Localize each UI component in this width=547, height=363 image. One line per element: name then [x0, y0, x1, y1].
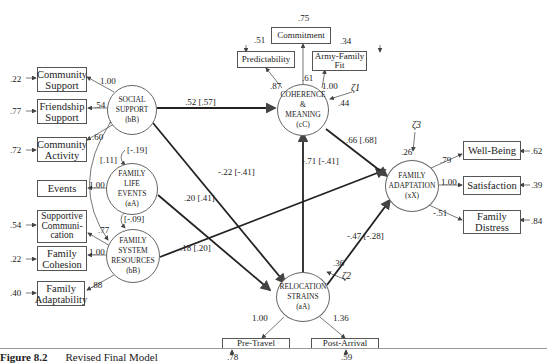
loading-value: .61 [302, 73, 313, 83]
indicator-label: Family Distress [464, 211, 520, 233]
latent-label: (aA) [296, 302, 310, 312]
latent-label: FAMILY [398, 171, 425, 181]
indicator-supportive-communication: Supportive Communi-cation [37, 210, 87, 243]
correlation-value: [-.19] [127, 145, 147, 155]
indicator-friendship-support: Friendship Support [37, 99, 87, 124]
loading-value: 1.00 [322, 81, 338, 91]
path-coefficient: -.47 [-.28] [347, 231, 384, 241]
indicator-army-family-fit: Army-Family Fit [312, 51, 367, 71]
indicator-label: Satisfaction [467, 180, 517, 191]
loading-value: .54 [94, 100, 105, 110]
indicator-label: Events [48, 183, 77, 194]
indicator-family-cohesion: Family Cohesion [37, 246, 87, 271]
latent-label: (aA) [125, 199, 139, 209]
figure-caption: Figure 8.2Revised Final Model [0, 351, 158, 363]
latent-label: SOCIAL [118, 95, 145, 105]
correlation-value: [.11] [100, 155, 117, 165]
error-value: .59 [341, 352, 352, 362]
indicator-predictability: Predictability [237, 51, 295, 68]
error-value: .62 [531, 146, 542, 156]
error-value: .75 [298, 13, 309, 23]
loading-value: 1.00 [89, 247, 105, 257]
latent-coherence-meaning: COHERENCE & MEANING (cC) [277, 84, 329, 136]
zeta-3-symbol: ζ3 [412, 119, 421, 130]
loading-value: -.51 [433, 208, 447, 218]
loading-value: 1.00 [100, 76, 116, 86]
path-coefficient: -.22 [-.41] [218, 167, 255, 177]
error-value: .51 [254, 35, 265, 45]
latent-label: (bB) [126, 266, 140, 276]
latent-label: COHERENCE [281, 90, 326, 100]
latent-label: & [300, 100, 306, 110]
indicator-events: Events [37, 180, 87, 197]
indicator-satisfaction: Satisfaction [463, 176, 521, 195]
error-value: .78 [227, 352, 238, 362]
indicator-well-being: Well-Being [463, 141, 521, 160]
latent-label: EVENTS [118, 189, 147, 199]
zeta-1-value: .44 [338, 98, 349, 108]
latent-label: SUPPORT [116, 105, 148, 115]
correlation-value: [-.09] [124, 214, 144, 224]
indicator-label: Supportive Communi-cation [38, 212, 86, 241]
latent-label: STRAINS [287, 292, 318, 302]
latent-label: FAMILY [118, 169, 145, 179]
loading-value: .87 [270, 81, 281, 91]
latent-label: ADAPTATION [389, 181, 436, 191]
latent-label: RELOCATION [279, 282, 326, 292]
latent-family-life-events: FAMILY LIFE EVENTS (aA) [106, 163, 158, 215]
error-value: .22 [10, 254, 21, 264]
loading-value: 1.00 [89, 180, 105, 190]
zeta-2-symbol: ζ2 [342, 270, 351, 281]
latent-label: SYSTEM [118, 246, 148, 256]
error-value: .54 [10, 220, 21, 230]
latent-label: LIFE [124, 179, 140, 189]
indicator-label: Army-Family Fit [313, 52, 366, 70]
indicator-label: Family Cohesion [38, 248, 86, 270]
loading-value: .79 [440, 155, 451, 165]
error-value: .22 [10, 74, 21, 84]
path-coefficient: -.71 [-.41] [302, 156, 339, 166]
latent-label: (bB) [125, 115, 139, 125]
indicator-family-distress: Family Distress [463, 210, 521, 234]
loading-value: .88 [91, 280, 102, 290]
latent-label: MEANING [285, 110, 320, 120]
caption-divider [0, 348, 547, 349]
latent-label: (xX) [405, 191, 419, 201]
path-coefficient: .52 [.57] [185, 97, 216, 107]
indicator-label: Commitment [277, 30, 325, 41]
caption-title: Revised Final Model [65, 351, 157, 363]
indicator-community-support: Community Support [37, 67, 87, 92]
error-value: .84 [531, 216, 542, 226]
zeta-3-value: .26 [401, 147, 412, 157]
loading-value: 1.00 [441, 177, 457, 187]
zeta-1-symbol: ζ1 [351, 82, 360, 93]
zeta-2-value: .36 [333, 258, 344, 268]
error-value: .77 [10, 106, 21, 116]
error-value: .39 [531, 180, 542, 190]
path-coefficient: .18 [.20] [180, 243, 211, 253]
latent-label: RESOURCES [111, 256, 154, 266]
indicator-community-activity: Community Activity [37, 137, 87, 162]
latent-label: FAMILY [119, 236, 146, 246]
indicator-label: Predictability [242, 54, 291, 65]
indicator-family-adaptability: Family Adaptability [37, 281, 85, 306]
loading-value: .77 [98, 225, 109, 235]
latent-relocation-strains: RELOCATION STRAINS (aA) [276, 272, 330, 322]
loading-value: 1.00 [252, 313, 268, 323]
indicator-label: Well-Being [468, 145, 516, 156]
caption-number: Figure 8.2 [0, 351, 47, 363]
error-value: .72 [10, 145, 21, 155]
latent-family-system-resources: FAMILY SYSTEM RESOURCES (bB) [106, 229, 160, 283]
indicator-label: Community Activity [37, 139, 87, 161]
indicator-label: Community Support [37, 69, 87, 91]
latent-label: (cC) [296, 120, 309, 130]
error-value: .40 [10, 288, 21, 298]
path-coefficient: .66 [.68] [346, 135, 377, 145]
loading-value: 1.36 [333, 313, 349, 323]
indicator-label: Friendship Support [38, 101, 86, 123]
path-coefficient: .20 [.41] [184, 193, 215, 203]
latent-social-support: SOCIAL SUPPORT (bB) [107, 85, 157, 135]
loading-value: .60 [92, 132, 103, 142]
indicator-commitment: Commitment [271, 27, 331, 44]
indicator-label: Family Adaptability [35, 283, 87, 305]
